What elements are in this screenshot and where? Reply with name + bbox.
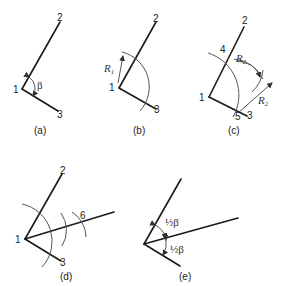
bisector-ray: [144, 218, 238, 244]
radius-r1-arrow: [118, 56, 123, 83]
ray-upper: [144, 179, 181, 244]
arc-r1: [208, 53, 239, 117]
point-3-label: 3: [247, 110, 253, 121]
point-5-label: 5: [235, 111, 241, 122]
ray-1-3: [22, 89, 58, 111]
panel-d: 1 2 3 6 (d): [15, 165, 114, 282]
ray-1-3: [25, 239, 61, 261]
half-angle-lower-arc: [163, 240, 166, 255]
radius-r2-lower-arrow: [238, 83, 272, 113]
radius-r2-upper-label: R2: [235, 52, 247, 66]
panel-e-caption: (e): [179, 271, 191, 282]
arc-r2-a: [61, 213, 66, 246]
point-2-label: 2: [60, 165, 66, 176]
radius-r1-label: R1: [103, 62, 114, 76]
point-2-label: 2: [57, 12, 63, 23]
half-angle-upper-label: ½β: [165, 216, 179, 228]
point-3-label: 3: [57, 109, 63, 120]
arc-r2-from-5: [252, 70, 263, 92]
panel-a-caption: (a): [34, 125, 46, 136]
panel-d-caption: (d): [60, 271, 72, 282]
point-2-label: 2: [242, 15, 248, 26]
radius-r2-lower-label: R2: [257, 94, 269, 108]
panel-b-caption: (b): [133, 125, 145, 136]
point-3-label: 3: [60, 257, 66, 268]
panel-a: 1 2 3 β (a): [13, 12, 63, 136]
point-6-label: 6: [80, 210, 86, 221]
half-angle-lower-label: ½β: [170, 243, 184, 255]
point-3-label: 3: [154, 104, 160, 115]
ray-1-2: [119, 22, 156, 88]
point-1-label: 1: [109, 82, 115, 93]
angle-beta-label: β: [37, 79, 43, 91]
point-1-label: 1: [15, 234, 21, 245]
panel-c: 4 5 1 2 3 R2 R2 (c): [199, 15, 272, 136]
panel-b: R1 1 2 3 (b): [103, 13, 160, 136]
panel-e: ½β ½β (e): [144, 179, 238, 282]
point-1-label: 1: [13, 84, 19, 95]
panel-c-caption: (c): [228, 125, 240, 136]
ray-1-3: [209, 97, 247, 116]
point-1-label: 1: [199, 92, 205, 103]
ray-1-3: [119, 88, 156, 109]
point-4-label: 4: [220, 44, 226, 55]
point-2-label: 2: [153, 13, 159, 24]
angle-bisection-diagram: 1 2 3 β (a) R1 1 2 3 (b) 4 5 1 2 3 R2 R2…: [0, 0, 281, 286]
